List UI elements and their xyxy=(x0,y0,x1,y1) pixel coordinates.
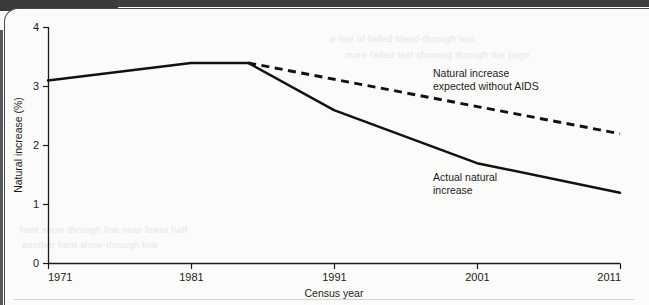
y-tick-label-2: 2 xyxy=(33,139,39,151)
y-tick-label-4: 4 xyxy=(33,21,39,33)
annotation-expected-line2: expected without AIDS xyxy=(433,80,539,92)
x-tick-label-1971: 1971 xyxy=(48,271,72,283)
y-tick-label-3: 3 xyxy=(33,80,39,92)
y-tick-label-1: 1 xyxy=(33,198,39,210)
line-chart: 0 1 2 3 4 1971 1981 1991 2001 2011 Censu… xyxy=(0,0,649,305)
annotation-actual-line2: increase xyxy=(433,184,473,196)
annotation-expected-line1: Natural increase xyxy=(433,67,510,79)
x-axis-title: Census year xyxy=(305,287,364,299)
x-tick-label-2001: 2001 xyxy=(465,271,489,283)
annotation-actual-line1: Actual natural xyxy=(433,171,497,183)
x-tick-label-1991: 1991 xyxy=(322,271,346,283)
x-tick-label-1981: 1981 xyxy=(179,271,203,283)
y-axis-title: Natural increase (%) xyxy=(12,97,24,193)
x-tick-label-2011: 2011 xyxy=(597,271,621,283)
scanned-page: a line of faded bleed-through text more … xyxy=(0,0,649,305)
y-tick-label-0: 0 xyxy=(33,257,39,269)
